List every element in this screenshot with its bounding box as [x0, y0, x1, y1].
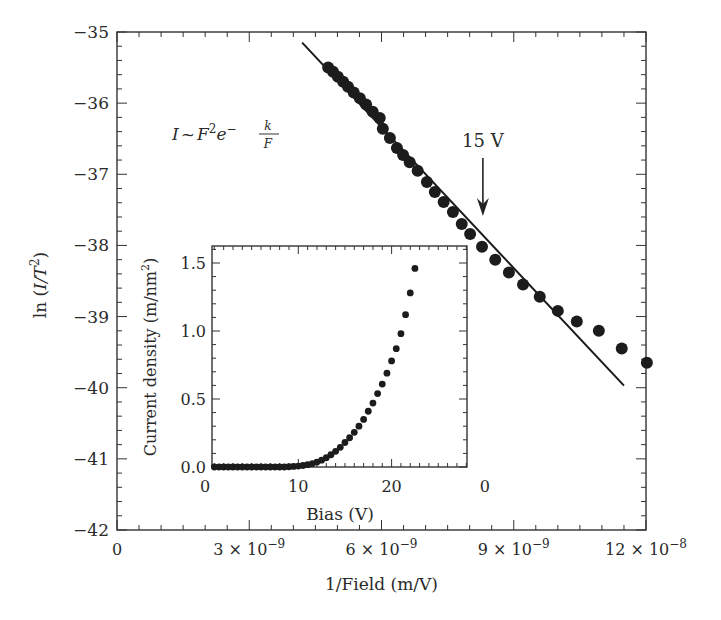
data-point: [503, 266, 515, 278]
inset-data-point: [374, 390, 381, 397]
y-axis-label-post: ): [30, 252, 50, 259]
inset-x-tick-label: 10: [288, 477, 308, 496]
eq-I: I: [171, 124, 179, 144]
inset-plot: 0.00.51.01.5010200Bias (V)Current densit…: [139, 246, 490, 524]
inset-y-tick-label: 0.5: [181, 390, 206, 409]
eq-minus: −: [226, 122, 236, 136]
x-tick-label: 0: [112, 540, 122, 559]
y-tick-label: −39: [73, 307, 109, 327]
data-point: [571, 316, 583, 328]
eq-sup2: 2: [209, 122, 217, 136]
data-point: [412, 165, 424, 177]
data-point: [464, 228, 476, 240]
x-tick-label: 6 × 10−9: [346, 537, 418, 559]
eq-numerator: k: [264, 119, 271, 133]
data-point: [534, 291, 546, 303]
data-point: [421, 176, 433, 188]
y-axis-label-italic: I/T: [30, 264, 50, 290]
data-point: [489, 254, 501, 266]
x-tick-exponent: −8: [669, 537, 687, 551]
inset-y-tick-label: 1.0: [181, 322, 206, 341]
x-tick-exponent: −9: [532, 537, 550, 551]
x-tick-exponent: −9: [267, 537, 285, 551]
inset-x-tick-label: 20: [381, 477, 401, 496]
inset-data-point: [398, 330, 405, 337]
x-tick-label: 3 × 10−9: [213, 537, 285, 559]
y-tick-label: −37: [73, 164, 109, 184]
inset-data-point: [393, 345, 400, 352]
data-point: [456, 218, 468, 230]
x-axis-label: 1/Field (m/V): [325, 574, 438, 594]
data-point: [476, 241, 488, 253]
inset-data-point: [365, 408, 372, 415]
y-tick-label: −42: [73, 520, 109, 540]
inset-x-tick-label: 0: [480, 477, 490, 496]
inset-data-point: [388, 358, 395, 365]
inset-x-tick-label: 0: [200, 477, 210, 496]
inset-data-point: [351, 429, 358, 436]
figure: −35−36−37−38−39−40−41−4203 × 10−96 × 10−…: [0, 0, 721, 620]
y-axis-label-sup: 2: [28, 258, 42, 266]
inset-y-tick-label: 1.5: [181, 254, 206, 273]
y-tick-label: −36: [73, 93, 109, 113]
inset-y-label-pre: Current density (m/nm: [141, 271, 160, 456]
data-point: [429, 186, 441, 198]
data-point: [616, 343, 628, 355]
inset-y-tick-label: 0.0: [181, 458, 206, 477]
data-point: [374, 112, 386, 124]
inset-y-label-post: ): [141, 258, 160, 264]
inset-data-point: [402, 311, 409, 318]
inset-data-point: [384, 370, 391, 377]
data-point: [641, 357, 653, 369]
inset-data-point: [346, 434, 353, 441]
inset-y-label-sup: 2: [139, 264, 152, 271]
inset-data-point: [356, 423, 363, 430]
y-tick-label: −40: [73, 378, 109, 398]
data-point: [447, 206, 459, 218]
x-tick-label: 9 × 10−9: [478, 537, 550, 559]
data-point: [552, 305, 564, 317]
eq-tilde: ~: [181, 124, 195, 144]
data-point: [593, 325, 605, 337]
y-tick-label: −35: [73, 22, 109, 42]
data-point: [438, 196, 450, 208]
inset-data-point: [360, 416, 367, 423]
y-tick-label: −41: [73, 449, 109, 469]
inset-data-point: [407, 290, 414, 297]
inset-data-point: [379, 381, 386, 388]
y-tick-label: −38: [73, 235, 109, 255]
eq-denominator: F: [263, 137, 273, 151]
eq-e: e: [216, 124, 226, 144]
x-tick-exponent: −9: [400, 537, 418, 551]
data-point: [384, 132, 396, 144]
annotation-15v: 15 V: [462, 130, 505, 151]
inset-data-point: [370, 400, 377, 407]
inset-y-axis-label: Current density (m/nm2): [139, 258, 160, 457]
inset-frame: [212, 246, 467, 467]
inset-x-axis-label: Bias (V): [306, 504, 374, 524]
inset-data-point: [412, 265, 419, 272]
x-tick-label: 12 × 10−8: [605, 537, 687, 559]
equation-text: I~F2e−: [171, 122, 237, 144]
data-point: [517, 279, 529, 291]
y-axis-label-pre: ln (: [30, 290, 50, 318]
y-axis-label: ln (I/T2): [28, 252, 50, 319]
